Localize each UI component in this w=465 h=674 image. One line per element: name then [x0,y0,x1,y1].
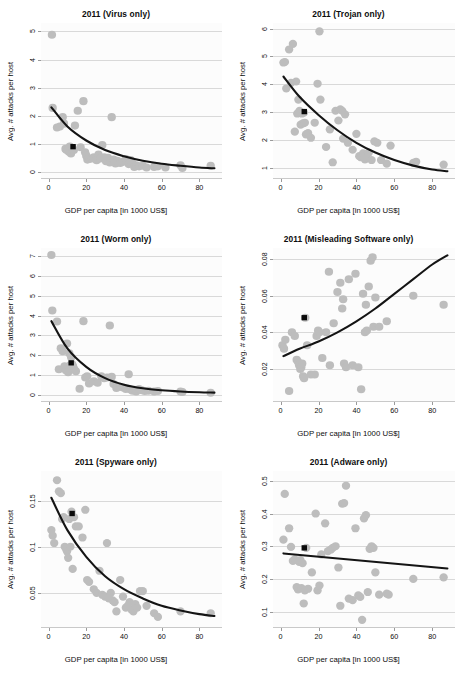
scatter-point [298,359,306,367]
mean-marker [302,545,307,550]
scatter-points [279,482,448,624]
x-tick-mark [162,179,163,182]
scatter-point [53,476,61,484]
scatter-point [358,616,366,624]
panel-title: 2011 (Spyware only) [0,457,232,467]
scatter-point [108,113,116,121]
scatter-point [81,506,89,514]
scatter-point [291,332,299,340]
x-tick-mark [86,628,87,631]
x-tick-mark [124,628,125,631]
data-layer [41,471,222,628]
scatter-point [83,372,91,380]
scatter-point [362,301,370,309]
x-tick-mark [162,402,163,405]
scatter-point [285,387,293,395]
scatter-point [333,288,341,296]
x-tick-label: 60 [390,633,398,641]
scatter-point [318,354,326,362]
y-tick-label: 0.1 [29,525,36,569]
scatter-point [47,251,55,259]
x-tick-label: 80 [428,633,436,641]
x-tick-label: 40 [120,184,128,192]
y-axis-label: Avg. # attacks per host [236,23,248,179]
scatter-point [340,499,348,507]
scatter-point [79,97,87,105]
y-tick-label: 5 [29,9,36,53]
x-tick-label: 40 [120,633,128,641]
scatter-point [356,593,364,601]
scatter-point [329,158,337,166]
x-axis-label: GDP per capita [in 1000 US$] [232,429,465,438]
chart-panel-4: 2011 (Misleading Software only)Avg. # at… [232,225,465,448]
scatter-points [47,476,215,621]
x-tick-mark [124,179,125,182]
scatter-point [321,519,329,527]
scatter-point [75,522,83,530]
scatter-point [71,122,79,130]
x-tick-label: 20 [82,633,90,641]
scatter-point [384,591,392,599]
scatter-point [280,345,288,353]
x-tick-mark [86,402,87,405]
data-layer [273,248,455,402]
scatter-point [334,563,342,571]
scatter-point [139,587,147,595]
scatter-point [69,565,77,573]
y-tick-label: 7 [29,234,36,278]
x-tick-label: 80 [428,184,436,192]
x-tick-mark [394,402,395,405]
scatter-point [439,301,447,309]
x-tick-label: 60 [158,633,166,641]
scatter-point [57,489,65,497]
x-tick-mark [281,628,282,631]
x-tick-mark [281,179,282,182]
x-tick-mark [281,402,282,405]
scatter-point [74,107,82,115]
scatter-point [341,110,349,118]
data-layer [273,471,455,628]
x-tick-label: 0 [47,407,51,415]
x-tick-label: 60 [390,184,398,192]
x-tick-mark [394,179,395,182]
x-tick-label: 80 [195,184,203,192]
scatter-point [49,532,57,540]
scatter-point [79,317,87,325]
scatter-point [107,589,115,597]
scatter-point [375,323,383,331]
scatter-point [365,282,373,290]
scatter-point [329,319,337,327]
plot-area: 012345020406080 [41,23,222,179]
scatter-point [48,31,56,39]
chart-panel-5: 2011 (Spyware only)Avg. # attacks per ho… [0,448,232,674]
x-tick-label: 40 [120,407,128,415]
scatter-point [78,533,86,541]
x-tick-label: 20 [315,633,323,641]
x-tick-label: 0 [279,184,283,192]
scatter-point [285,524,293,532]
scatter-point [369,544,377,552]
scatter-point [311,509,319,517]
y-axis-label: Avg. # attacks per host [4,23,16,179]
mean-marker [68,360,73,365]
x-tick-label: 40 [352,184,360,192]
scatter-point [311,119,319,127]
scatter-point [338,304,346,312]
scatter-point [322,143,330,151]
scatter-point [331,542,339,550]
data-layer [273,23,455,179]
scatter-point [291,128,299,136]
scatter-point [116,576,124,584]
scatter-point [308,568,316,576]
scatter-point [409,575,417,583]
x-tick-mark [49,179,50,182]
x-axis-label: GDP per capita [in 1000 US$] [0,655,232,664]
scatter-point [357,385,365,393]
scatter-point [292,77,300,85]
scatter-point [304,585,312,593]
x-tick-mark [356,402,357,405]
scatter-point [371,293,379,301]
scatter-point [133,604,141,612]
x-tick-label: 20 [315,407,323,415]
scatter-point [383,160,391,168]
